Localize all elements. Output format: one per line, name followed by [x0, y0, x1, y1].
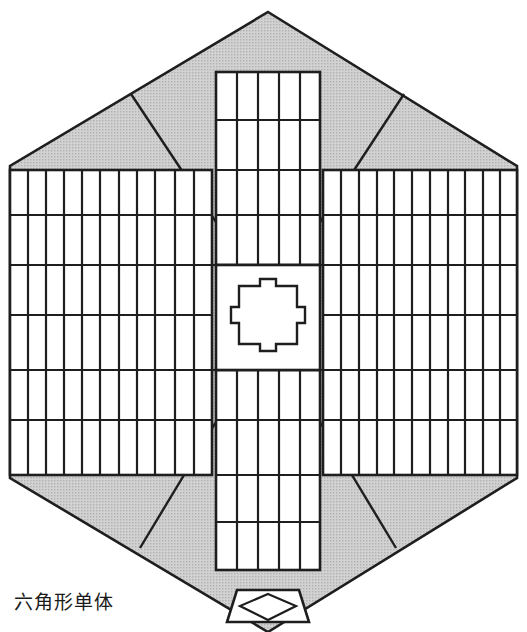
bottom-arm-body	[216, 370, 320, 570]
top-arm-body	[216, 72, 320, 265]
bottom-arm	[216, 370, 320, 570]
top-arm	[216, 72, 320, 265]
central-core	[231, 279, 305, 351]
figure-caption: 六角形单体	[14, 592, 114, 614]
left-wing	[10, 170, 212, 475]
hexagonal-unit-plan	[0, 0, 527, 632]
right-wing	[323, 170, 517, 475]
bottom-entrance	[227, 590, 309, 622]
figure-root: 六角形单体	[0, 0, 527, 632]
